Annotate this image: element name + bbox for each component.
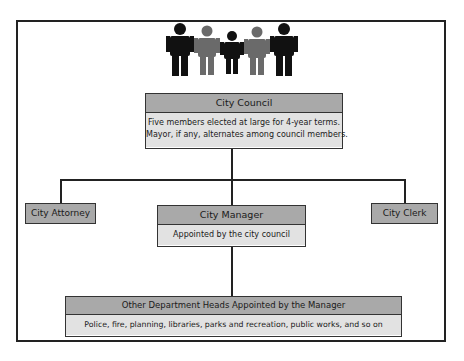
connector-horizontal [60,179,405,181]
connector-trunk-top [231,148,233,206]
city-council-line-1: Five members elected at large for 4-year… [146,117,342,129]
city-council-box: City Council Five members elected at lar… [145,93,343,149]
connector-attorney [60,179,62,204]
city-manager-description: Appointed by the city council [158,225,305,245]
city-attorney-box: City Attorney [25,203,96,224]
connector-clerk [404,179,406,204]
city-council-title: City Council [146,94,342,113]
city-council-line-2: Mayor, if any, alternates among council … [146,129,342,141]
people-group-icon [166,22,298,78]
city-manager-box: City Manager Appointed by the city counc… [157,205,306,247]
city-clerk-box: City Clerk [371,203,438,224]
city-manager-title: City Manager [158,206,305,225]
connector-trunk-bottom [231,246,233,297]
department-heads-title: Other Department Heads Appointed by the … [66,297,401,315]
city-council-description: Five members elected at large for 4-year… [146,113,342,147]
department-heads-description: Police, fire, planning, libraries, parks… [66,315,401,335]
department-heads-box: Other Department Heads Appointed by the … [65,296,402,337]
